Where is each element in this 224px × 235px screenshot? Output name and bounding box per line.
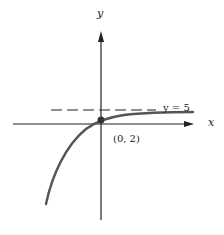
x-axis-arrow-icon — [184, 121, 194, 127]
y-axis-arrow-icon — [98, 31, 104, 42]
graph-canvas — [0, 0, 224, 235]
exponential-curve — [46, 112, 193, 204]
point-label: (0, 2) — [113, 134, 140, 144]
asymptote-label: y = 5 — [163, 103, 190, 113]
x-axis-label: x — [208, 117, 214, 128]
intercept-point — [98, 117, 105, 124]
y-axis-label: y — [97, 8, 103, 19]
